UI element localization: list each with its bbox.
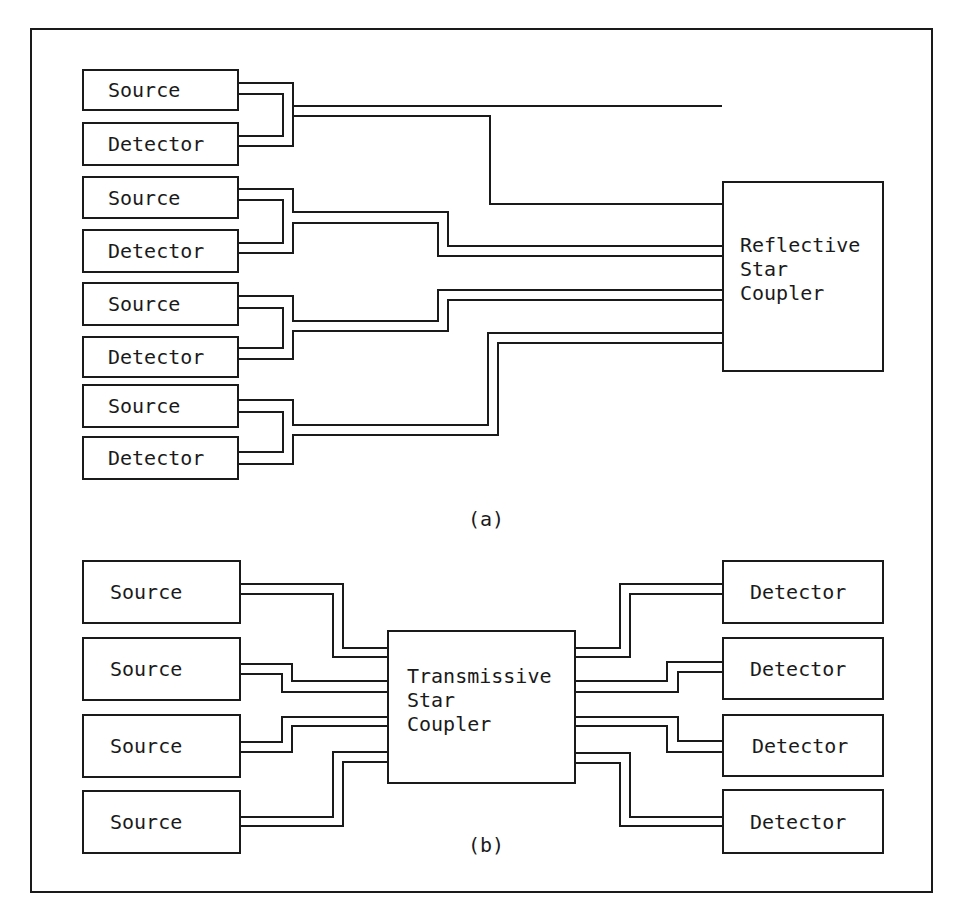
panel-a-source-3: Source	[82, 282, 239, 326]
coupler-label: Transmissive Star Coupler	[407, 664, 552, 736]
node-label: Source	[108, 394, 180, 418]
node-label: Source	[108, 292, 180, 316]
node-label: Source	[108, 186, 180, 210]
node-label: Source	[110, 657, 182, 681]
panel-b-source-3: Source	[82, 714, 241, 778]
reflective-star-coupler: Reflective Star Coupler	[722, 181, 884, 372]
panel-b-detector-2: Detector	[722, 637, 884, 700]
node-label: Detector	[750, 810, 846, 834]
node-label: Detector	[108, 446, 204, 470]
panel-a-detector-4: Detector	[82, 436, 239, 480]
panel-b-detector-1: Detector	[722, 560, 884, 624]
panel-b-detector-4: Detector	[722, 789, 884, 854]
node-label: Source	[110, 810, 182, 834]
panel-b-source-1: Source	[82, 560, 241, 624]
node-label: Source	[108, 78, 180, 102]
panel-a-source-2: Source	[82, 176, 239, 219]
coupler-label: Reflective Star Coupler	[740, 233, 860, 305]
caption-a: (a)	[468, 507, 504, 531]
node-label: Source	[110, 734, 182, 758]
panel-a-source-4: Source	[82, 384, 239, 428]
node-label: Detector	[108, 345, 204, 369]
panel-b-source-4: Source	[82, 790, 241, 854]
node-label: Detector	[752, 734, 848, 758]
node-label: Detector	[750, 657, 846, 681]
figure: Source Detector Source Detector Source D…	[0, 0, 956, 917]
transmissive-star-coupler: Transmissive Star Coupler	[387, 630, 576, 784]
node-label: Source	[110, 580, 182, 604]
caption-b: (b)	[468, 833, 504, 857]
panel-b-detector-3: Detector	[722, 714, 884, 777]
panel-a-detector-3: Detector	[82, 336, 239, 378]
panel-a-detector-1: Detector	[82, 122, 239, 166]
node-label: Detector	[108, 132, 204, 156]
panel-a-source-1: Source	[82, 69, 239, 111]
panel-a-detector-2: Detector	[82, 229, 239, 273]
node-label: Detector	[750, 580, 846, 604]
panel-b-source-2: Source	[82, 637, 241, 701]
node-label: Detector	[108, 239, 204, 263]
